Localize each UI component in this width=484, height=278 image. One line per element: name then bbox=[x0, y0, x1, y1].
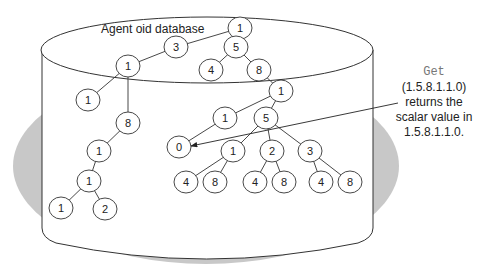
node-label: 1 bbox=[96, 145, 102, 157]
node-label: 3 bbox=[173, 41, 179, 53]
oid-node: 8 bbox=[272, 171, 296, 193]
oid-node: 8 bbox=[116, 112, 140, 134]
node-label: 1 bbox=[125, 60, 131, 72]
oid-node: 1 bbox=[116, 55, 140, 77]
node-label: 4 bbox=[208, 64, 214, 76]
annotation-line-1: returns the bbox=[382, 95, 484, 110]
oid-node: 4 bbox=[309, 171, 333, 193]
oid-node: 5 bbox=[254, 107, 278, 129]
node-label: 8 bbox=[281, 176, 287, 188]
oid-node: 1 bbox=[49, 197, 73, 219]
node-label: 5 bbox=[233, 41, 239, 53]
oid-node: 3 bbox=[298, 140, 322, 162]
oid-node: 1 bbox=[269, 80, 293, 102]
node-label: 0 bbox=[176, 141, 182, 153]
oid-node: 1 bbox=[87, 140, 111, 162]
annotation-line-3: 1.5.8.1.1.0. bbox=[382, 125, 484, 140]
node-label: 3 bbox=[307, 145, 313, 157]
database-title: Agent oid database bbox=[101, 22, 205, 36]
node-label: 5 bbox=[263, 112, 269, 124]
oid-node: 4 bbox=[243, 171, 267, 193]
oid-node: 1 bbox=[76, 89, 100, 111]
get-oid-argument: (1.5.8.1.1.0) bbox=[382, 80, 484, 95]
node-label: 8 bbox=[125, 117, 131, 129]
node-label: 4 bbox=[252, 176, 258, 188]
get-annotation: Get (1.5.8.1.1.0) returns the scalar val… bbox=[382, 64, 484, 140]
oid-node: 8 bbox=[338, 171, 362, 193]
node-label: 4 bbox=[183, 176, 189, 188]
oid-node: 5 bbox=[224, 36, 248, 58]
node-label: 1 bbox=[86, 175, 92, 187]
oid-node: 4 bbox=[199, 59, 223, 81]
node-label: 8 bbox=[212, 176, 218, 188]
oid-node: 8 bbox=[203, 171, 227, 193]
node-label: 1 bbox=[237, 22, 243, 34]
node-label: 1 bbox=[85, 94, 91, 106]
oid-node: 1 bbox=[213, 107, 237, 129]
oid-node: 2 bbox=[93, 198, 117, 220]
oid-node: 3 bbox=[164, 36, 188, 58]
node-label: 1 bbox=[222, 112, 228, 124]
node-label: 4 bbox=[318, 176, 324, 188]
node-label: 1 bbox=[278, 85, 284, 97]
get-command: Get bbox=[423, 65, 445, 79]
node-label: 1 bbox=[230, 145, 236, 157]
oid-node: 0 bbox=[167, 136, 191, 158]
node-label: 1 bbox=[58, 202, 64, 214]
oid-node: 1 bbox=[221, 140, 245, 162]
node-label: 8 bbox=[256, 64, 262, 76]
oid-node: 1 bbox=[77, 170, 101, 192]
oid-node: 1 bbox=[228, 17, 252, 39]
node-label: 8 bbox=[347, 176, 353, 188]
oid-node: 4 bbox=[174, 171, 198, 193]
oid-node: 2 bbox=[260, 140, 284, 162]
annotation-line-2: scalar value in bbox=[382, 110, 484, 125]
node-label: 2 bbox=[102, 203, 108, 215]
node-label: 2 bbox=[269, 145, 275, 157]
oid-node: 8 bbox=[247, 59, 271, 81]
